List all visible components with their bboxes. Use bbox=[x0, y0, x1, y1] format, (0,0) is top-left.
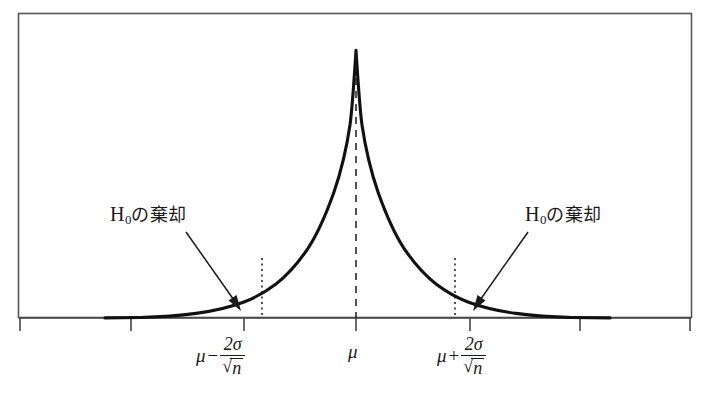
left-rejection-annotation: H0の棄却 bbox=[110, 204, 187, 226]
upper-critical-tick-label: μ+2σ√n bbox=[437, 336, 486, 379]
upper-denominator: √n bbox=[461, 356, 486, 378]
upper-numerator: 2σ bbox=[461, 335, 486, 355]
lower-critical-tick-label: μ−2σ√n bbox=[196, 336, 245, 379]
mean-mu-symbol: μ bbox=[348, 341, 358, 362]
normal-distribution-curve bbox=[105, 50, 610, 318]
axis-ticks bbox=[20, 318, 690, 331]
left-rejection-text: の棄却 bbox=[131, 204, 187, 225]
upper-fraction: 2σ√n bbox=[461, 335, 486, 378]
lower-radicand: n bbox=[230, 358, 243, 378]
lower-denominator: √n bbox=[220, 356, 245, 378]
right-hypothesis-symbol: H bbox=[525, 203, 540, 225]
lower-radical-symbol: √ bbox=[222, 357, 232, 376]
lower-numerator: 2σ bbox=[220, 335, 245, 355]
lower-mu-symbol: μ bbox=[196, 345, 206, 366]
left-annotation-arrow bbox=[186, 232, 241, 311]
upper-mu-symbol: μ bbox=[437, 345, 447, 366]
right-rejection-text: の棄却 bbox=[546, 204, 602, 225]
mean-tick-label: μ bbox=[348, 342, 358, 361]
left-hypothesis-symbol: H bbox=[110, 203, 125, 225]
lower-operator: − bbox=[206, 345, 221, 366]
lower-fraction: 2σ√n bbox=[220, 335, 245, 378]
upper-radical-symbol: √ bbox=[463, 357, 473, 376]
right-annotation-arrow bbox=[473, 232, 528, 311]
upper-radicand: n bbox=[471, 358, 484, 378]
figure-canvas bbox=[0, 0, 704, 395]
statistics-figure: H0の棄却 H0の棄却 μ−2σ√n μ μ+2σ√n bbox=[0, 0, 704, 395]
upper-operator: + bbox=[447, 345, 462, 366]
right-rejection-annotation: H0の棄却 bbox=[525, 204, 602, 226]
